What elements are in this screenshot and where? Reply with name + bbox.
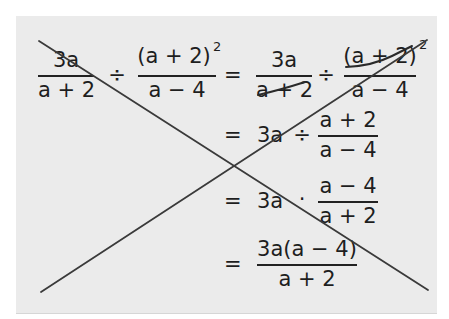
- row1-divide-op-2: ÷: [315, 65, 337, 86]
- row1-frac2-exponent: 2: [213, 40, 221, 53]
- row3-multiply-op: ·: [292, 189, 312, 210]
- row1-frac4-numerator: (a + 2): [342, 46, 418, 67]
- row1-frac4-denominator: a − 4: [344, 80, 416, 101]
- row1-frac1-numerator: 3a: [38, 50, 94, 71]
- row2-equals: =: [224, 125, 240, 146]
- row2-frac-bar: [318, 135, 378, 137]
- row2-frac-numerator: a + 2: [318, 110, 378, 131]
- row1-frac2-bar: [138, 75, 216, 77]
- row4-frac-numerator: 3a(a − 4): [255, 239, 359, 260]
- row3-frac-denominator: a + 2: [318, 206, 378, 227]
- row1-frac3-bar: [256, 75, 312, 77]
- row3-equals: =: [224, 191, 240, 212]
- row3-term: 3a: [257, 191, 283, 212]
- row3-frac-bar: [318, 201, 378, 203]
- row1-frac4-exponent: 2: [419, 38, 427, 51]
- row1-frac1-denominator: a + 2: [38, 80, 94, 101]
- row2-divide-op: ÷: [292, 125, 312, 146]
- row1-frac3-denominator: a + 2: [256, 80, 312, 101]
- row1-divide-op: ÷: [106, 65, 128, 86]
- row1-frac3-numerator: 3a: [256, 50, 312, 71]
- row3-frac-numerator: a − 4: [318, 176, 378, 197]
- row2-term: 3a: [257, 125, 283, 146]
- row1-frac2-denominator: a − 4: [138, 80, 216, 101]
- row2-frac-denominator: a − 4: [318, 140, 378, 161]
- row1-frac4-bar: [344, 75, 416, 77]
- row4-equals: =: [224, 254, 240, 275]
- row1-frac1-bar: [38, 75, 94, 77]
- row4-frac-denominator: a + 2: [257, 269, 357, 290]
- row1-equals: =: [224, 65, 240, 86]
- row4-frac-bar: [257, 264, 357, 266]
- row1-frac2-numerator: (a + 2): [136, 46, 212, 67]
